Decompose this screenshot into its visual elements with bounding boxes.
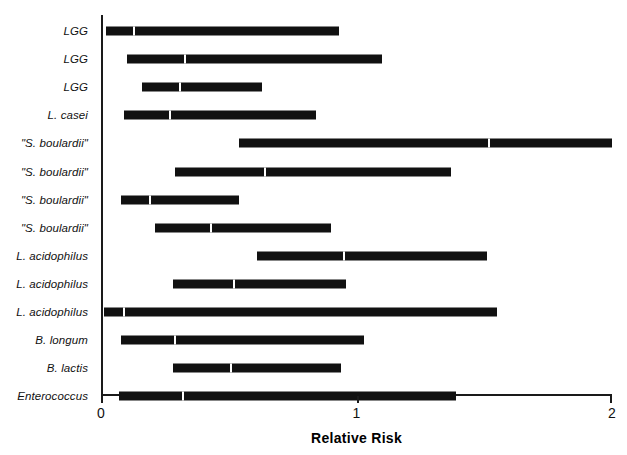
confidence-interval-bar bbox=[127, 55, 383, 64]
point-estimate-marker bbox=[182, 392, 184, 401]
plot-area: 012 Relative Risk bbox=[101, 15, 612, 394]
confidence-interval-bar bbox=[121, 195, 239, 204]
point-estimate-marker bbox=[123, 308, 125, 317]
x-axis-tick bbox=[101, 396, 103, 403]
point-estimate-marker bbox=[264, 167, 266, 176]
confidence-interval-bar bbox=[106, 27, 339, 36]
y-axis-label: LGG bbox=[63, 81, 88, 93]
y-axis-label: "S. boulardii" bbox=[21, 194, 88, 206]
x-axis-tick-label: 2 bbox=[608, 405, 616, 421]
confidence-interval-bar bbox=[142, 83, 262, 92]
point-estimate-marker bbox=[233, 279, 235, 288]
confidence-interval-bar bbox=[173, 364, 342, 373]
point-estimate-marker bbox=[174, 336, 176, 345]
confidence-interval-bar bbox=[121, 336, 364, 345]
point-estimate-marker bbox=[230, 364, 232, 373]
point-estimate-marker bbox=[343, 251, 345, 260]
y-axis-label: Enterococcus bbox=[17, 390, 88, 402]
confidence-interval-bar bbox=[239, 139, 612, 148]
confidence-interval-bar bbox=[175, 167, 451, 176]
point-estimate-marker bbox=[169, 111, 171, 120]
point-estimate-marker bbox=[184, 55, 186, 64]
x-axis-tick bbox=[610, 396, 612, 403]
point-estimate-marker bbox=[133, 27, 135, 36]
y-axis-label: LGG bbox=[63, 53, 88, 65]
x-axis-tick-label: 1 bbox=[353, 405, 361, 421]
point-estimate-marker bbox=[488, 139, 490, 148]
point-estimate-marker bbox=[179, 83, 181, 92]
confidence-interval-bar bbox=[124, 111, 316, 120]
y-axis-label: "S. boulardii" bbox=[21, 166, 88, 178]
y-axis-label: L. acidophilus bbox=[16, 306, 88, 318]
forest-plot-chart: LGGLGGLGGL. casei"S. boulardii""S. boula… bbox=[0, 0, 627, 455]
confidence-interval-bar bbox=[119, 392, 456, 401]
y-axis-label: L. casei bbox=[48, 109, 88, 121]
x-axis-title: Relative Risk bbox=[101, 430, 612, 446]
point-estimate-marker bbox=[210, 223, 212, 232]
y-axis-label: B. lactis bbox=[47, 362, 88, 374]
y-axis-label: B. longum bbox=[35, 334, 88, 346]
y-axis-label: LGG bbox=[63, 25, 88, 37]
point-estimate-marker bbox=[149, 195, 151, 204]
y-axis-category-labels: LGGLGGLGGL. casei"S. boulardii""S. boula… bbox=[0, 0, 96, 394]
x-axis-tick-label: 0 bbox=[97, 405, 105, 421]
confidence-interval-bar bbox=[257, 251, 487, 260]
x-axis-tick bbox=[357, 396, 359, 403]
confidence-interval-bar bbox=[173, 279, 347, 288]
confidence-interval-bar bbox=[104, 308, 497, 317]
y-axis-label: L. acidophilus bbox=[16, 278, 88, 290]
y-axis-line bbox=[101, 15, 103, 394]
y-axis-label: L. acidophilus bbox=[16, 250, 88, 262]
y-axis-label: "S. boulardii" bbox=[21, 222, 88, 234]
y-axis-label: "S. boulardii" bbox=[21, 137, 88, 149]
confidence-interval-bar bbox=[155, 223, 331, 232]
